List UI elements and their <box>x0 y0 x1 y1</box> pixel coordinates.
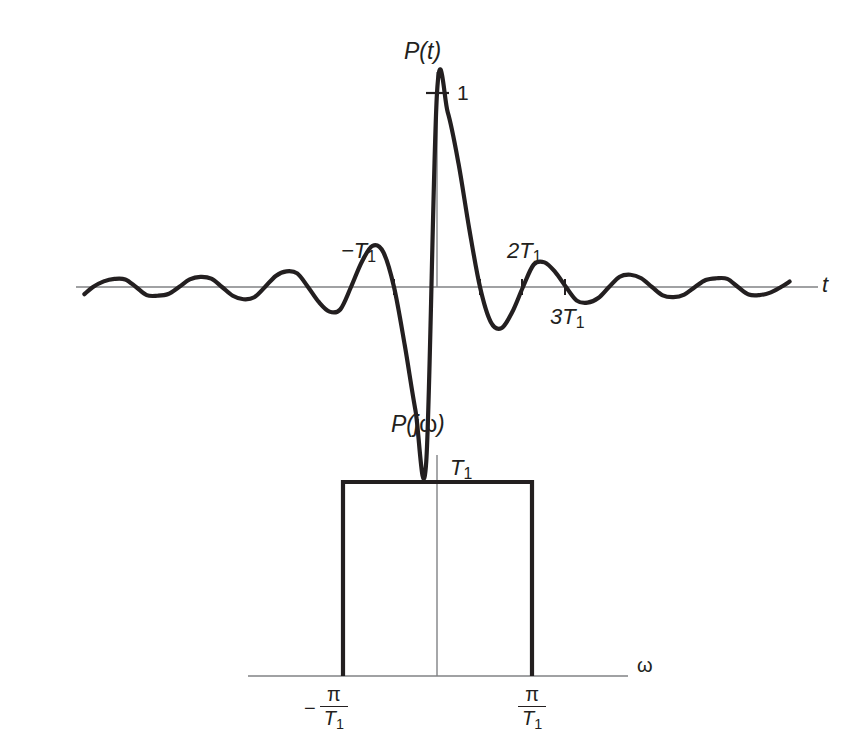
left-edge-fraction: π T1 <box>320 684 348 732</box>
right-edge-denominator: T1 <box>518 707 546 732</box>
bottom-plot <box>248 455 628 676</box>
omega-axis-label: ω <box>637 655 653 675</box>
bottom-title-prefix: P(j <box>391 411 419 437</box>
right-edge-T: T <box>522 707 534 729</box>
left-edge-T-subscript: 1 <box>336 716 344 732</box>
left-edge-minus: − <box>304 698 316 718</box>
t-axis-label: t <box>822 274 828 296</box>
two-T1-subscript: 1 <box>533 248 542 265</box>
three-T1-subscript: 1 <box>576 314 585 331</box>
top-plot <box>76 69 818 478</box>
two-T1-label: 2T1 <box>507 240 542 265</box>
left-edge-numerator: π <box>320 684 348 707</box>
right-band-edge-label: π T1 <box>518 684 546 732</box>
bottom-title-suffix: ) <box>437 411 445 437</box>
three-T1-text: 3T <box>550 304 576 329</box>
bottom-plot-title: P(jω) <box>391 413 445 436</box>
peak-value-label: 1 <box>457 82 469 103</box>
top-plot-title: P(t) <box>404 40 441 63</box>
right-edge-T-subscript: 1 <box>534 716 542 732</box>
amplitude-T1-subscript: 1 <box>463 465 472 482</box>
three-T1-label: 3T1 <box>550 306 585 331</box>
minus-T1-text: −T <box>341 238 367 263</box>
right-edge-numerator: π <box>518 684 546 707</box>
right-edge-fraction: π T1 <box>518 684 546 732</box>
left-band-edge-label: − π T1 <box>304 684 348 732</box>
two-T1-text: 2T <box>507 238 533 263</box>
left-edge-T: T <box>324 707 336 729</box>
minus-T1-label: −T1 <box>341 240 376 265</box>
minus-T1-subscript: 1 <box>367 248 376 265</box>
amplitude-T1-text: T <box>450 455 463 480</box>
amplitude-T1-label: T1 <box>450 457 472 482</box>
left-edge-denominator: T1 <box>320 707 348 732</box>
omega-glyph: ω <box>419 411 437 437</box>
